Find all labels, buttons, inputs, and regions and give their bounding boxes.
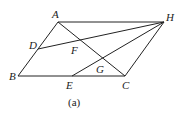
label-F: F	[70, 44, 78, 56]
geometry-diagram: A H D F G B E C (a)	[0, 0, 180, 120]
label-H: H	[165, 11, 175, 23]
segment-DH	[38, 22, 164, 49]
label-D: D	[28, 39, 37, 51]
segment-CH	[125, 22, 164, 76]
label-G: G	[96, 63, 104, 75]
label-C: C	[122, 79, 130, 91]
segments	[18, 22, 164, 76]
label-B: B	[9, 70, 16, 82]
segment-AC	[58, 22, 125, 76]
segment-EH	[72, 22, 164, 76]
label-E: E	[65, 79, 73, 91]
figure-caption: (a)	[68, 96, 81, 109]
label-A: A	[51, 8, 59, 20]
